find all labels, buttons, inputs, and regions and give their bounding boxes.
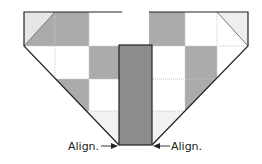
right-align-label: Align. [171,140,202,153]
right-align-arrow [153,143,170,149]
right-pieced-unit [149,12,248,145]
cell-r-0-0 [149,12,185,46]
left-align-label: Align. [68,140,99,153]
cell-l-0-1 [55,12,89,46]
left-pieced-unit [24,12,122,145]
cell-l-1-2 [89,46,122,79]
cell-r-1-1 [185,46,217,79]
cell-l-1-1 [55,46,89,79]
cell-r-0-1 [185,12,217,46]
cell-l-0-2 [89,12,122,46]
cell-r-2-0 [149,79,185,111]
left-align-arrow [101,143,118,149]
cell-l-2-2 [89,79,122,111]
quilt-diagram: Align. Align. [0,0,262,164]
cell-r-1-0 [149,46,185,79]
center-strip [119,45,152,145]
